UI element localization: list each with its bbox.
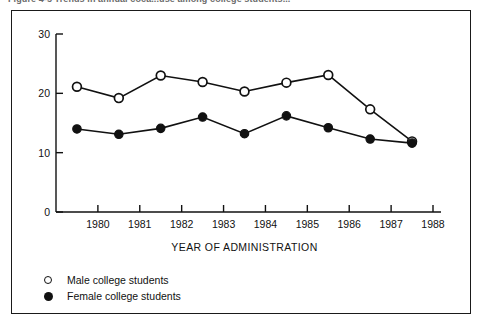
legend-label-male: Male college students bbox=[67, 274, 169, 286]
legend-label-female: Female college students bbox=[67, 290, 181, 302]
x-axis-tick-label: 1986 bbox=[338, 218, 362, 230]
x-axis-tick-label: 1982 bbox=[170, 218, 194, 230]
data-point-male bbox=[73, 82, 82, 91]
data-point-female bbox=[73, 125, 81, 133]
data-point-female bbox=[282, 112, 290, 120]
y-axis-tick-label: 20 bbox=[38, 87, 50, 99]
x-axis-tick-label: 1988 bbox=[421, 218, 445, 230]
y-axis-tick-label: 30 bbox=[38, 28, 50, 40]
data-point-male bbox=[198, 78, 207, 87]
data-point-female bbox=[198, 113, 206, 121]
filled-circle-icon bbox=[44, 292, 62, 301]
data-point-male bbox=[366, 105, 375, 114]
data-point-male bbox=[324, 71, 333, 80]
data-point-female bbox=[240, 129, 248, 137]
data-point-female bbox=[157, 124, 165, 132]
chart-plot-area: 0102030198019811982198319841985198619871… bbox=[12, 11, 469, 312]
data-point-female bbox=[408, 139, 416, 147]
x-axis-tick-label: 1980 bbox=[86, 218, 110, 230]
legend-item-female: Female college students bbox=[44, 288, 181, 304]
x-axis-tick-label: 1981 bbox=[128, 218, 152, 230]
figure-caption: Figure 4-5 Trends in annual coca...use a… bbox=[8, 0, 290, 4]
x-axis-tick-label: 1985 bbox=[296, 218, 320, 230]
data-point-male bbox=[240, 87, 249, 96]
chart-legend: Male college students Female college stu… bbox=[44, 272, 181, 304]
data-point-female bbox=[366, 135, 374, 143]
x-axis-title: YEAR OF ADMINISTRATION bbox=[171, 241, 317, 253]
data-point-male bbox=[282, 78, 291, 87]
y-axis-tick-label: 0 bbox=[44, 206, 50, 218]
x-axis-tick-label: 1983 bbox=[212, 218, 236, 230]
open-circle-icon bbox=[44, 276, 62, 284]
x-axis-tick-label: 1987 bbox=[379, 218, 403, 230]
x-axis-tick-label: 1984 bbox=[254, 218, 278, 230]
data-point-female bbox=[324, 124, 332, 132]
data-point-female bbox=[115, 130, 123, 138]
data-point-male bbox=[114, 94, 123, 103]
chart-frame: 0102030198019811982198319841985198619871… bbox=[11, 10, 471, 314]
data-point-male bbox=[156, 71, 165, 80]
legend-item-male: Male college students bbox=[44, 272, 181, 288]
y-axis-tick-label: 10 bbox=[38, 147, 50, 159]
